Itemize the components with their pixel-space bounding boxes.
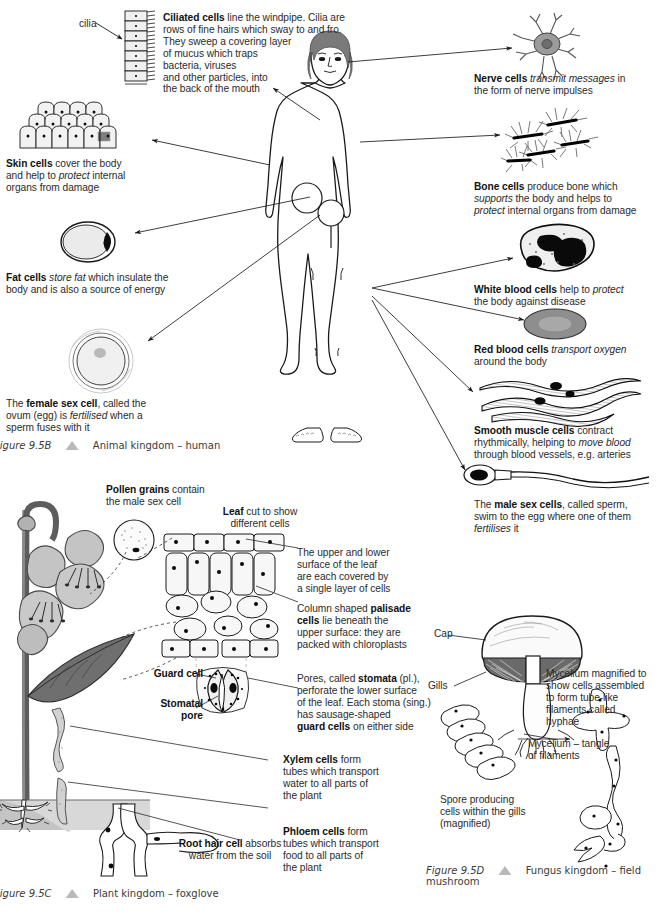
caption-triangle-icon <box>66 441 79 450</box>
figure-95b-number: Figure 9.5B <box>0 440 51 451</box>
bone-cells-text: Bone cells produce bone whichsupports th… <box>474 181 659 217</box>
pollen-grains-text: Pollen grains containthe male sex cell <box>106 484 266 508</box>
guard-cell-label: Guard cell <box>133 668 203 680</box>
white-blood-cells-text: White blood cells help to protectthe bod… <box>474 284 659 308</box>
skin-cells-text: Skin cells cover the bodyand help to pro… <box>6 158 176 194</box>
gills-label: Gills <box>428 680 464 692</box>
ciliated-cells-text: Ciliated cells line the windpipe. Cilia … <box>163 12 378 95</box>
female-sex-cell-text: The female sex cell, called theovum (egg… <box>6 398 186 434</box>
nerve-cells-text: Nerve cells transmit messages inthe form… <box>474 73 659 97</box>
epidermis-text: The upper and lowersurface of the leafar… <box>297 547 447 595</box>
fat-cells-text: Fat cells store fat which insulate thebo… <box>6 272 231 296</box>
red-blood-cells-text: Red blood cells transport oxygenaround t… <box>474 344 659 368</box>
leaf-cut-text: Leaf cut to showdifferent cells <box>200 506 320 530</box>
figure-95c-text: Plant kingdom – foxglove <box>93 888 219 899</box>
figure-95d-caption: Figure 9.5D Fungus kingdom – field mushr… <box>426 865 646 887</box>
smooth-muscle-cells-text: Smooth muscle cells contractrhythmically… <box>474 425 659 461</box>
spore-producing-cells-text: Spore producingcells within the gills(ma… <box>440 794 560 830</box>
mycelium-tangle-text: Mycelium – tangleof filaments <box>528 738 638 762</box>
figure-page: cilia Ciliated cells line the windpipe. … <box>0 0 659 912</box>
figure-95b-text: Animal kingdom – human <box>93 440 221 451</box>
caption-triangle-icon-c <box>66 889 79 898</box>
mycelium-magnified-text: Mycelium magnified toshow cells assemble… <box>546 668 658 728</box>
figure-95c-number: Figure 9.5C <box>0 888 52 899</box>
cap-label: Cap <box>434 628 464 640</box>
stomatal-pore-label: Stomatalpore <box>120 698 203 722</box>
root-hair-cell-text: Root hair cell absorbswater from the soi… <box>150 838 310 862</box>
caption-triangle-icon-d <box>498 866 511 875</box>
figure-95d-number: Figure 9.5D <box>426 865 484 876</box>
cilia-label: cilia <box>79 18 97 30</box>
figure-95c-caption: Figure 9.5C Plant kingdom – foxglove <box>0 888 219 899</box>
figure-95b-caption: Figure 9.5B Animal kingdom – human <box>0 440 220 451</box>
